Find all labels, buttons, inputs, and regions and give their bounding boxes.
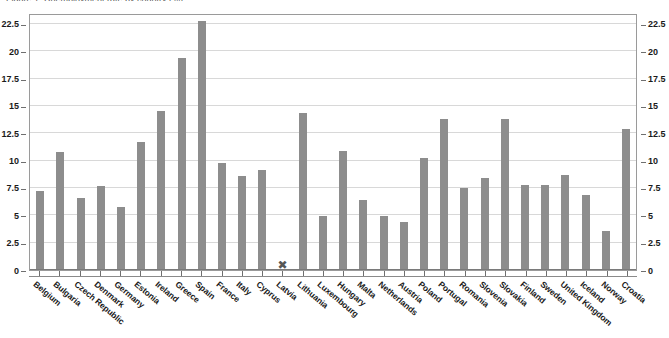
y-tick-label-left: 2.5 xyxy=(6,239,19,248)
bar[interactable] xyxy=(380,216,388,270)
bar[interactable] xyxy=(137,142,145,270)
bar-slot[interactable] xyxy=(91,15,111,270)
bar-slot[interactable] xyxy=(293,15,313,270)
bar-slot[interactable] xyxy=(353,15,373,270)
y-axis-left: 02.557.51012.51517.52022.5 xyxy=(0,0,26,338)
y-tick-mark-left xyxy=(21,216,26,217)
x-label-slot: Spain xyxy=(191,277,211,338)
bar[interactable] xyxy=(521,185,529,270)
bar-slot[interactable] xyxy=(373,15,393,270)
bar-slot[interactable]: ✖ xyxy=(272,15,292,270)
bar[interactable] xyxy=(359,200,367,270)
x-label-slot: Estonia xyxy=(130,277,150,338)
bar-slot[interactable] xyxy=(434,15,454,270)
x-label-slot: Slovenia xyxy=(475,277,495,338)
bar-slot[interactable] xyxy=(70,15,90,270)
x-label-slot: Netherlands xyxy=(374,277,394,338)
bar[interactable] xyxy=(218,163,226,270)
x-label-slot: Austria xyxy=(394,277,414,338)
y-tick-mark-right xyxy=(641,25,646,26)
bar[interactable] xyxy=(36,191,44,270)
bar[interactable] xyxy=(582,195,590,270)
y-tick-label-right: 20 xyxy=(648,48,658,57)
bar[interactable] xyxy=(56,152,64,270)
bar-slot[interactable] xyxy=(151,15,171,270)
bar-slot[interactable] xyxy=(171,15,191,270)
bar[interactable] xyxy=(400,222,408,270)
bar[interactable] xyxy=(157,111,165,270)
bar-slot[interactable] xyxy=(535,15,555,270)
bar[interactable] xyxy=(117,207,125,270)
bar[interactable] xyxy=(440,119,448,270)
x-label-slot: Malta xyxy=(353,277,373,338)
x-label-slot: Belgium xyxy=(29,277,49,338)
x-axis-labels: BelgiumBulgariaCzech RepublicDenmarkGerm… xyxy=(29,277,637,338)
bar[interactable] xyxy=(420,158,428,270)
bar-slot[interactable] xyxy=(495,15,515,270)
bar-slot[interactable] xyxy=(232,15,252,270)
x-label-slot: Denmark xyxy=(90,277,110,338)
bar-slot[interactable] xyxy=(414,15,434,270)
bar-slot[interactable] xyxy=(252,15,272,270)
bar[interactable] xyxy=(258,170,266,270)
bar-slot[interactable] xyxy=(192,15,212,270)
y-axis-right: 02.557.51012.51517.52022.5 xyxy=(641,0,669,338)
x-label-slot: Cyprus xyxy=(252,277,272,338)
bar[interactable] xyxy=(622,129,630,270)
y-tick-mark-left xyxy=(21,189,26,190)
y-tick-mark-left xyxy=(21,271,26,272)
bar[interactable] xyxy=(178,58,186,270)
bar[interactable] xyxy=(339,151,347,270)
y-tick-label-right: 10 xyxy=(648,157,658,166)
y-tick-label-left: 12.5 xyxy=(1,130,19,139)
bar-slot[interactable] xyxy=(212,15,232,270)
x-label-slot: Slovakia xyxy=(495,277,515,338)
bar-slot[interactable] xyxy=(596,15,616,270)
bar-slot[interactable] xyxy=(555,15,575,270)
bar-slot[interactable] xyxy=(474,15,494,270)
bar[interactable] xyxy=(319,216,327,270)
bar-slot[interactable] xyxy=(111,15,131,270)
y-tick-mark-right xyxy=(641,134,646,135)
bar-slot[interactable] xyxy=(131,15,151,270)
y-tick-mark-left xyxy=(21,244,26,245)
x-label-slot: Sweden xyxy=(536,277,556,338)
bar[interactable] xyxy=(198,21,206,270)
bar[interactable] xyxy=(238,176,246,270)
x-label-slot: Croatia xyxy=(617,277,637,338)
y-tick-label-left: 7.5 xyxy=(6,184,19,193)
y-tick-label-right: 17.5 xyxy=(648,75,666,84)
bar[interactable] xyxy=(561,175,569,270)
x-label-slot: Ireland xyxy=(151,277,171,338)
y-tick-label-left: 5 xyxy=(14,212,19,221)
bar-slot[interactable] xyxy=(454,15,474,270)
bar[interactable] xyxy=(501,119,509,270)
bar-slot[interactable] xyxy=(30,15,50,270)
bar[interactable] xyxy=(481,178,489,270)
bar-slot[interactable] xyxy=(616,15,636,270)
y-tick-mark-right xyxy=(641,107,646,108)
x-label-slot: France xyxy=(211,277,231,338)
bar[interactable] xyxy=(602,231,610,270)
bar[interactable] xyxy=(77,198,85,270)
bar-slot[interactable] xyxy=(575,15,595,270)
x-label-slot: Finland xyxy=(515,277,535,338)
y-tick-label-right: 15 xyxy=(648,102,658,111)
bar-slot[interactable] xyxy=(313,15,333,270)
y-tick-mark-left xyxy=(21,80,26,81)
x-label-slot: Lithuania xyxy=(292,277,312,338)
bar-slot[interactable] xyxy=(394,15,414,270)
y-tick-mark-right xyxy=(641,80,646,81)
bar-slot[interactable] xyxy=(333,15,353,270)
bar[interactable] xyxy=(299,113,307,270)
plot-area: ✖ xyxy=(29,14,637,271)
bar-slot[interactable] xyxy=(50,15,70,270)
bar-slot[interactable] xyxy=(515,15,535,270)
y-tick-label-right: 2.5 xyxy=(648,239,661,248)
y-tick-label-right: 7.5 xyxy=(648,184,661,193)
bar[interactable] xyxy=(541,185,549,270)
bar[interactable] xyxy=(460,188,468,270)
bar[interactable] xyxy=(97,186,105,270)
y-tick-mark-left xyxy=(21,25,26,26)
x-label-slot: Norway xyxy=(596,277,616,338)
